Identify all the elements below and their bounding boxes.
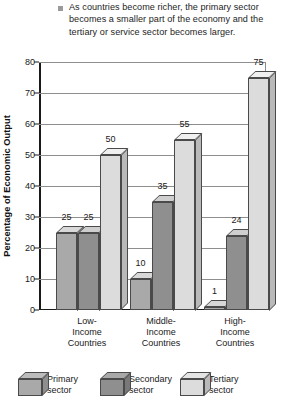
- legend-swatch: [18, 379, 42, 396]
- y-axis-tick-mark: [34, 310, 39, 311]
- legend-swatch-front: [100, 379, 124, 396]
- bar-front: [78, 233, 99, 311]
- legend-label-line: sector: [129, 385, 172, 396]
- bar-side: [269, 71, 276, 311]
- y-axis-tick-mark: [34, 124, 39, 125]
- bar-front: [152, 202, 173, 311]
- bar: 1: [204, 307, 225, 310]
- bar-front: [174, 140, 195, 311]
- bar-group: 252550: [56, 62, 126, 310]
- legend-label-line: Secondary: [129, 374, 172, 385]
- legend-item: Tertiarysector: [180, 374, 239, 396]
- legend-label-line: Primary: [47, 374, 78, 385]
- bar: 25: [78, 233, 99, 311]
- bar-value-label: 75: [253, 57, 263, 67]
- bar-front: [130, 279, 151, 310]
- category-label-line: Countries: [190, 338, 280, 349]
- callout-note: As countries become richer, the primary …: [58, 1, 276, 38]
- legend-swatch: [180, 379, 204, 396]
- bar: 24: [226, 236, 247, 310]
- square-bullet-icon: [58, 6, 63, 11]
- y-axis-tick-mark: [34, 62, 39, 63]
- bar: 50: [100, 155, 121, 310]
- bar-value-label: 35: [157, 181, 167, 191]
- bar-value-label: 10: [135, 258, 145, 268]
- y-axis-tick-mark: [34, 279, 39, 280]
- legend-swatch: [100, 379, 124, 396]
- legend-item: Secondarysector: [100, 374, 172, 396]
- bar-front: [56, 233, 77, 311]
- legend-label: Primarysector: [47, 374, 78, 396]
- category-label-line: Income: [190, 327, 280, 338]
- y-axis-tick-mark: [34, 93, 39, 94]
- bar-value-label: 50: [105, 134, 115, 144]
- bar: 75: [248, 78, 269, 311]
- plot-area: 01020304050607080 25255010355512475 Perc…: [39, 62, 266, 310]
- y-axis-tick-mark: [34, 155, 39, 156]
- bar-side: [195, 133, 202, 311]
- chart-legend: PrimarysectorSecondarysectorTertiarysect…: [0, 366, 282, 405]
- bar-front: [226, 236, 247, 310]
- bar-value-label: 1: [212, 286, 217, 296]
- legend-item: Primarysector: [18, 374, 78, 396]
- legend-swatch-front: [18, 379, 42, 396]
- chart-figure: As countries become richer, the primary …: [0, 0, 282, 405]
- legend-label-line: sector: [209, 385, 239, 396]
- legend-label-line: Tertiary: [209, 374, 239, 385]
- y-axis-title: Percentage of Economic Output: [2, 115, 12, 257]
- bar-value-label: 25: [83, 212, 93, 222]
- bar-value-label: 55: [179, 119, 189, 129]
- x-axis-category-label: High-IncomeCountries: [190, 316, 280, 350]
- bar-value-label: 24: [231, 215, 241, 225]
- legend-label: Tertiarysector: [209, 374, 239, 396]
- bar-side: [121, 148, 128, 310]
- bar: 35: [152, 202, 173, 311]
- bar: 25: [56, 233, 77, 311]
- bar-value-label: 25: [61, 212, 71, 222]
- bar: 10: [130, 279, 151, 310]
- bar-front: [100, 155, 121, 310]
- y-axis-tick-mark: [34, 186, 39, 187]
- callout-note-text: As countries become richer, the primary …: [69, 1, 276, 38]
- legend-label-line: sector: [47, 385, 78, 396]
- category-label-line: High-: [190, 316, 280, 327]
- legend-label: Secondarysector: [129, 374, 172, 396]
- bar-front: [248, 78, 269, 311]
- y-axis-tick-mark: [34, 248, 39, 249]
- bar-group: 103555: [130, 62, 200, 310]
- bar: 55: [174, 140, 195, 311]
- legend-swatch-front: [180, 379, 204, 396]
- bar-group: 12475: [204, 62, 274, 310]
- bar-front: [204, 307, 225, 310]
- y-axis-tick-mark: [34, 217, 39, 218]
